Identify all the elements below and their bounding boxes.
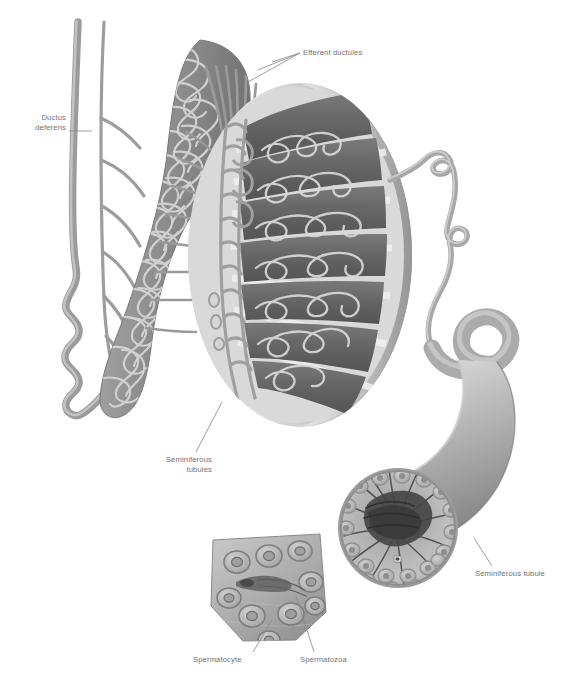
testis [188,83,412,427]
anatomy-figure: Ductus deferens Efferent ductules Semini… [0,0,565,695]
label-spermatocyte: Spermatocyte [193,655,255,665]
illustration-canvas [0,0,565,695]
label-seminiferous-tubules: Seminiferous tubules [140,455,212,474]
label-seminiferous-tubule: Seminiferous tubule [475,569,565,579]
label-spermatozoa: Spermatozoa [300,655,364,665]
leader-seminiferous-tubules [196,402,222,452]
leader-seminiferous-tubule [474,538,492,566]
leader-efferent-ductules [248,53,300,82]
ductus-deferens [63,21,104,415]
wedge-segment [211,534,326,649]
label-efferent-ductules: Efferent ductules [303,48,413,58]
label-ductus-deferens: Ductus deferens [8,113,66,132]
